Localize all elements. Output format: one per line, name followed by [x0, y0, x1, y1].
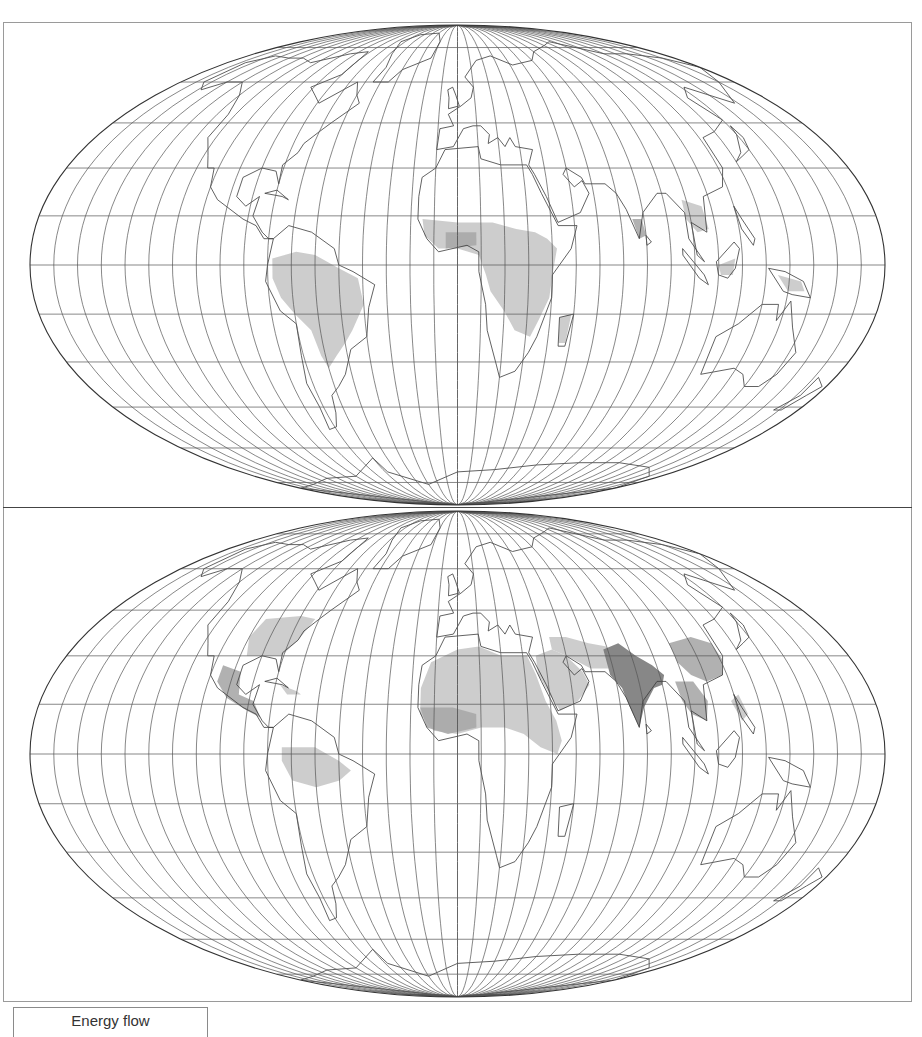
legend-title: Energy flow	[14, 1008, 207, 1031]
legend-box: Energy flow	[13, 1007, 208, 1037]
shaded-region	[632, 219, 646, 239]
panel-divider	[3, 507, 912, 508]
world-map-top	[4, 23, 911, 507]
world-map-bottom	[4, 509, 911, 999]
shaded-region	[731, 694, 748, 720]
